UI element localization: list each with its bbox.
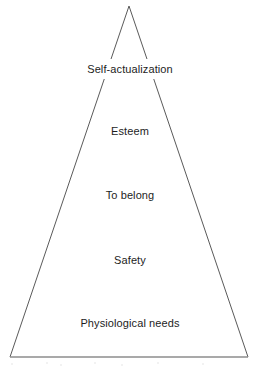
pyramid-tier-label: Self-actualization — [80, 59, 180, 79]
pyramid-tier-physiological-needs: Physiological needs — [0, 313, 260, 333]
pyramid-tier-label: Physiological needs — [73, 313, 186, 333]
pyramid-triangle-outline — [0, 0, 260, 367]
pyramid-tier-safety: Safety — [0, 250, 260, 270]
pyramid-tier-label: To belong — [99, 185, 162, 205]
pyramid-tier-label: Safety — [107, 250, 153, 270]
pyramid-tier-self-actualization: Self-actualization — [0, 59, 260, 79]
maslow-pyramid-diagram: Self-actualization Esteem To belong Safe… — [0, 0, 260, 367]
pyramid-tier-esteem: Esteem — [0, 121, 260, 141]
scan-noise-artifact — [0, 360, 260, 367]
pyramid-tier-to-belong: To belong — [0, 185, 260, 205]
pyramid-tier-label: Esteem — [104, 121, 156, 141]
